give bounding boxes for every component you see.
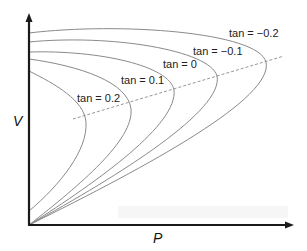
scan-ghost-artifact xyxy=(118,206,288,218)
label-tan-0.2: tan = 0.2 xyxy=(77,92,120,104)
x-axis-arrow-icon xyxy=(285,222,294,229)
pv-nose-curve-chart: V P tan = 0.2 tan = 0.1 tan = 0 tan = −0… xyxy=(0,0,307,251)
curve-tan-0.1 xyxy=(29,59,131,225)
y-axis-label: V xyxy=(13,113,24,129)
x-axis-label: P xyxy=(153,230,163,246)
label-tan-minus-0.1: tan = −0.1 xyxy=(193,45,243,57)
label-tan-minus-0.2: tan = −0.2 xyxy=(229,27,279,39)
label-tan-0: tan = 0 xyxy=(163,58,197,70)
label-tan-0.1: tan = 0.1 xyxy=(121,74,164,86)
y-axis-arrow-icon xyxy=(26,13,33,22)
